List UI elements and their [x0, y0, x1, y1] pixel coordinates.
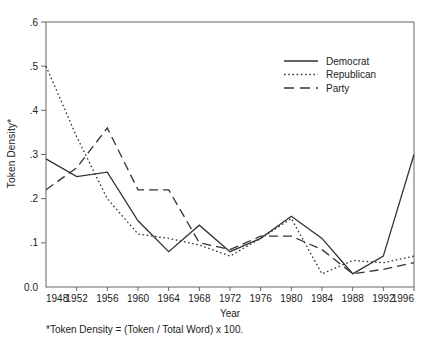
- legend-label-party: Party: [326, 83, 349, 94]
- series-line-republican: [46, 66, 414, 274]
- legend-label-republican: Republican: [326, 69, 376, 80]
- x-axis-title: Year: [46, 308, 414, 319]
- chart-figure: 0.0.1.2.3.4.5.61948195219561960196419681…: [0, 0, 442, 349]
- chart-canvas: 0.0.1.2.3.4.5.61948195219561960196419681…: [0, 0, 442, 349]
- y-tick-label: .3: [30, 149, 39, 160]
- y-tick-label: .2: [30, 193, 39, 204]
- y-tick-label: 0.0: [24, 282, 38, 293]
- x-tick-label: 1956: [96, 293, 119, 304]
- x-tick-label: 1972: [219, 293, 242, 304]
- x-tick-label: 1960: [127, 293, 150, 304]
- x-tick-label: 1996: [392, 293, 415, 304]
- x-tick-label: 1980: [280, 293, 303, 304]
- y-tick-label: .4: [30, 105, 39, 116]
- y-tick-label: .1: [30, 237, 39, 248]
- x-tick-label: 1984: [311, 293, 334, 304]
- x-tick-label: 1976: [250, 293, 273, 304]
- x-tick-label: 1952: [66, 293, 89, 304]
- x-tick-label: 1988: [342, 293, 365, 304]
- legend-label-democrat: Democrat: [326, 56, 370, 67]
- y-axis-title: Token Density*: [6, 99, 17, 209]
- y-tick-label: .6: [30, 17, 39, 28]
- x-tick-label: 1964: [158, 293, 181, 304]
- series-line-democrat: [46, 155, 414, 274]
- x-tick-label: 1968: [188, 293, 211, 304]
- chart-footnote: *Token Density = (Token / Total Word) x …: [46, 324, 243, 335]
- y-tick-label: .5: [30, 61, 39, 72]
